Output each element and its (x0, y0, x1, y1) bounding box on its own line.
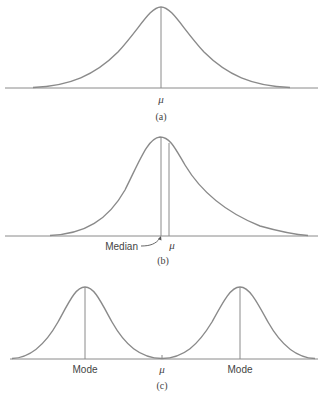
panel-a: μ (a) (5, 7, 318, 123)
median-arrow-icon (141, 238, 160, 246)
mean-label: μ (168, 239, 175, 251)
mean-label: μ (157, 93, 164, 105)
mode-right-label: Mode (227, 364, 252, 375)
mean-label: μ (158, 363, 165, 375)
caption-a: (a) (155, 111, 166, 123)
panel-b: Median μ (b) (5, 137, 318, 267)
median-label: Median (105, 241, 138, 252)
caption-b: (b) (157, 255, 169, 267)
caption-c: (c) (156, 380, 167, 392)
panel-c: Mode μ Mode (c) (10, 287, 318, 392)
mode-left-label: Mode (72, 364, 97, 375)
skewed-curve (50, 137, 308, 236)
distribution-figure: μ (a) Median μ (b) Mode μ Mode (c) (0, 0, 329, 395)
bimodal-curve (12, 287, 315, 359)
